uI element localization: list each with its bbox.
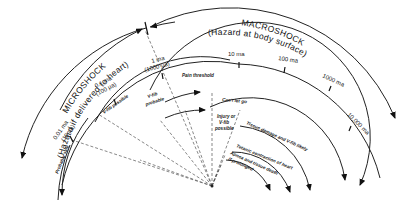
microshock-arrow-left — [22, 28, 146, 158]
vfib-probable-arrow2 — [165, 110, 205, 118]
macroshock-subtitle: (Hazard at body surface) — [207, 27, 309, 59]
label-injury-3: possible — [214, 126, 234, 131]
label-injury-2: V-fib — [219, 120, 229, 125]
pain-threshold-arc — [150, 22, 370, 185]
electric-shock-hazard-diagram: MICROSHOCK (Hazard if delivered to heart… — [0, 0, 417, 202]
tick-label-100ma: 100 ma — [278, 55, 299, 64]
vfib-probable-arrow1 — [165, 92, 200, 102]
origin-point — [211, 185, 214, 188]
tick-label-1000ma: 1000 ma — [322, 72, 346, 88]
label-pain-threshold: Pain threshold — [182, 73, 214, 78]
label-tissue-damage: Tissue damage and V-fib likely — [246, 120, 309, 152]
label-cant-let-go: Can't let go — [222, 97, 247, 104]
tick-label-10000ma: 10,000 ma — [346, 111, 371, 136]
radial-dashed-lines — [72, 30, 240, 186]
label-injury-1: Injury or — [217, 114, 236, 119]
tick-label-10ma: 10 ma — [228, 51, 245, 57]
